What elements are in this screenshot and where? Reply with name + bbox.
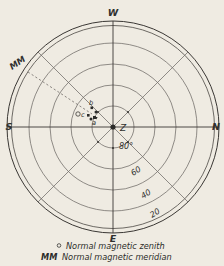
point-label-a: a [92,119,96,127]
polar-skyplot: W N E S Z 80° 60 40 20 MM b c a Normal m… [0,0,224,266]
point-marker-c [87,114,90,117]
figure-root: W N E S Z 80° 60 40 20 MM b c a Normal m… [0,0,224,266]
legend-mm-icon: MM [41,252,57,262]
point-marker-extra-1 [95,111,98,114]
elevation-label-80: 80° [119,142,133,151]
zenith-label: Z [119,123,127,133]
legend-text-zenith: Normal magnetic zenith [66,241,165,251]
cardinal-label-top: W [108,7,119,18]
cardinal-label-right: N [212,121,220,132]
point-label-b: b [89,99,93,107]
paper-background [0,0,224,266]
legend-text-meridian: Normal magnetic meridian [62,252,172,262]
cardinal-label-left: S [5,121,12,132]
point-label-c: c [81,111,85,119]
zenith-marker [110,124,115,129]
